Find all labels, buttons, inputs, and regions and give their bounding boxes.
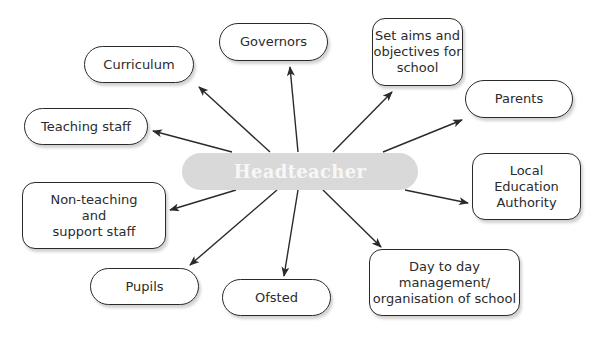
node-curriculum: Curriculum	[84, 46, 194, 83]
arrow-to-teaching-staff	[153, 131, 232, 152]
node-label: Governors	[240, 34, 307, 50]
node-label: Pupils	[125, 279, 163, 295]
node-set-aims: Set aims and objectives for school	[372, 18, 463, 86]
node-label: Set aims and objectives for school	[373, 28, 461, 76]
arrow-to-set-aims	[333, 92, 392, 152]
node-label: Curriculum	[103, 57, 174, 73]
node-label: Day to day management/ organisation of s…	[373, 259, 516, 307]
arrow-to-day-to-day	[323, 190, 381, 247]
headteacher-role-diagram: Headteacher CurriculumGovernorsSet aims …	[0, 0, 599, 340]
node-lea: Local Education Authority	[472, 153, 581, 220]
node-label: Teaching staff	[41, 119, 131, 135]
headteacher-label: Headteacher	[234, 161, 366, 182]
node-non-teaching: Non-teaching and support staff	[22, 182, 166, 249]
node-parents: Parents	[465, 80, 573, 118]
node-governors: Governors	[219, 23, 328, 61]
arrow-to-governors	[290, 67, 298, 152]
arrow-to-non-teaching	[170, 190, 236, 210]
node-label: Local Education Authority	[494, 163, 559, 211]
arrow-to-curriculum	[199, 87, 270, 152]
arrow-to-ofsted	[284, 190, 298, 276]
arrow-to-lea	[405, 190, 468, 203]
node-label: Non-teaching and support staff	[50, 192, 137, 240]
node-day-to-day: Day to day management/ organisation of s…	[369, 249, 520, 316]
node-ofsted: Ofsted	[222, 279, 331, 316]
node-pupils: Pupils	[90, 268, 199, 305]
node-label: Parents	[495, 91, 543, 107]
arrow-to-parents	[383, 120, 462, 152]
headteacher-node: Headteacher	[182, 153, 418, 190]
node-teaching-staff: Teaching staff	[24, 108, 148, 145]
arrow-to-pupils	[190, 190, 277, 265]
node-label: Ofsted	[255, 290, 298, 306]
